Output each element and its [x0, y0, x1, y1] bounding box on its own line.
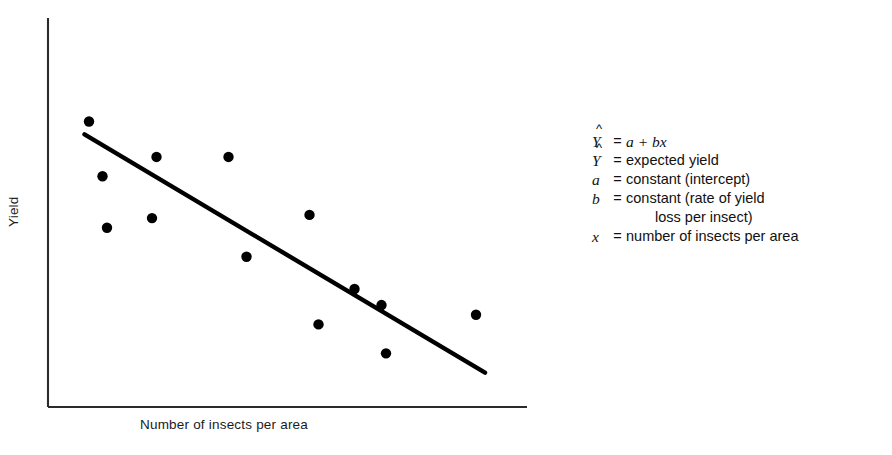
- equals-sign: =: [609, 189, 626, 208]
- legend-description: constant (rate of yield: [626, 189, 882, 208]
- legend-symbol: b: [592, 189, 609, 208]
- scatter-points: [84, 116, 481, 358]
- data-point: [147, 213, 157, 223]
- data-point: [97, 171, 107, 181]
- hat-accent-icon: ^: [592, 141, 606, 154]
- y-axis-label: Yield: [6, 172, 42, 252]
- axis-lines: [48, 18, 527, 407]
- data-point: [102, 223, 112, 233]
- data-point: [349, 284, 359, 294]
- legend-description: number of insects per area: [626, 227, 882, 246]
- legend-description: a + bx: [626, 132, 882, 152]
- data-point: [381, 348, 391, 358]
- data-point: [471, 310, 481, 320]
- data-point: [151, 152, 161, 162]
- legend-description: constant (intercept): [626, 170, 882, 189]
- legend-symbol: Y^: [592, 151, 609, 170]
- legend-row: a=constant (intercept): [592, 170, 882, 189]
- legend-description: expected yield: [626, 151, 882, 170]
- data-point: [223, 152, 233, 162]
- x-axis-label: Number of insects per area: [140, 417, 308, 432]
- data-point: [241, 252, 251, 262]
- legend-row: loss per insect): [592, 208, 882, 227]
- equals-sign: =: [609, 170, 626, 189]
- data-point: [376, 300, 386, 310]
- equals-sign: =: [609, 151, 626, 170]
- data-point: [313, 319, 323, 329]
- legend-symbol: a: [592, 170, 609, 189]
- legend-description: loss per insect): [626, 208, 882, 227]
- regression-line: [85, 134, 486, 372]
- equals-sign: =: [609, 227, 626, 246]
- figure-scatter-regression: Yield Number of insects per area Y^=a + …: [0, 0, 892, 455]
- legend-row: Y^=expected yield: [592, 151, 882, 170]
- plot-area: Yield Number of insects per area: [0, 0, 560, 455]
- hat-accent-icon: ^: [592, 122, 606, 135]
- legend-key: Y^=a + bxY^=expected yielda=constant (in…: [592, 132, 882, 246]
- legend-formula: a + bx: [626, 133, 667, 150]
- legend-row: x=number of insects per area: [592, 227, 882, 246]
- data-point: [304, 210, 314, 220]
- legend-row: Y^=a + bx: [592, 132, 882, 151]
- plot-svg: [0, 0, 560, 455]
- legend-symbol: x: [592, 227, 609, 246]
- equals-sign: =: [609, 132, 626, 151]
- data-point: [84, 116, 94, 126]
- legend-row: b=constant (rate of yield: [592, 189, 882, 208]
